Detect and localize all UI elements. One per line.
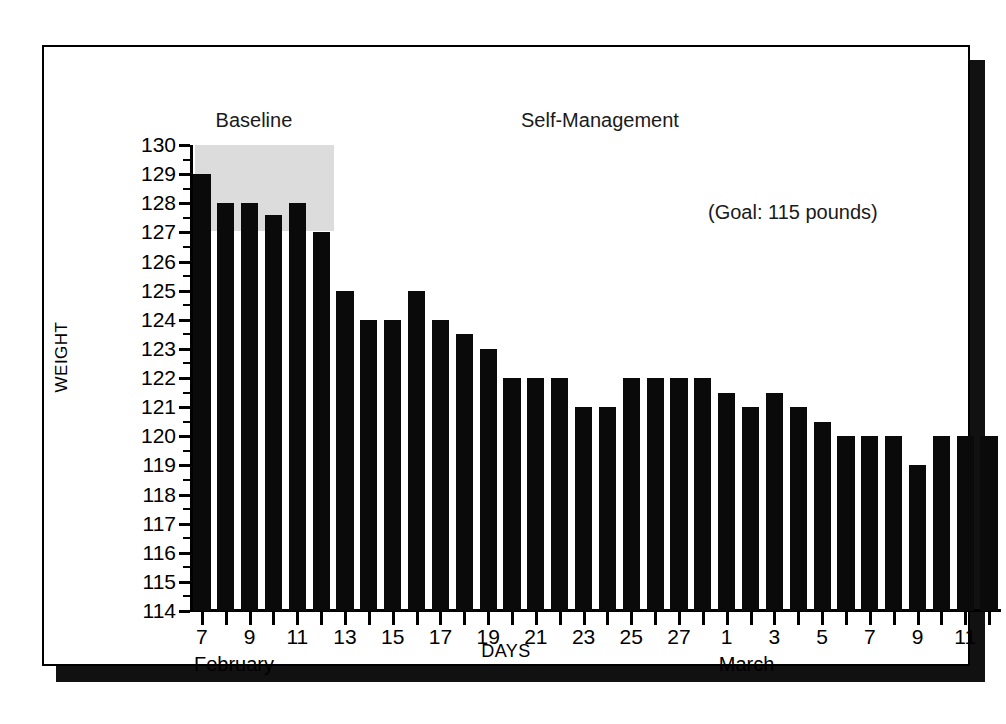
y-tick-label: 130 [132, 134, 176, 155]
bar [861, 436, 878, 611]
bar [837, 436, 854, 611]
x-tick [964, 612, 967, 625]
x-tick [272, 612, 275, 625]
y-tick-label: 126 [132, 251, 176, 272]
phase-label-baseline: Baseline [216, 109, 293, 132]
y-tick-major [179, 319, 190, 322]
y-tick-major [179, 464, 190, 467]
bar [670, 378, 687, 611]
bar [527, 378, 544, 611]
y-tick-label: 118 [132, 484, 176, 505]
x-tick [559, 612, 562, 625]
x-tick [702, 612, 705, 625]
bar [790, 407, 807, 611]
x-tick [344, 612, 347, 625]
y-tick-major [179, 610, 190, 613]
y-tick-major [179, 406, 190, 409]
bar [289, 203, 306, 611]
y-tick-major [179, 435, 190, 438]
y-tick-minor [183, 421, 190, 423]
y-tick-label: 115 [132, 571, 176, 592]
bar [909, 465, 926, 611]
x-tick [917, 612, 920, 625]
y-tick-major [179, 581, 190, 584]
y-tick-major [179, 523, 190, 526]
bar [957, 436, 974, 611]
bar [432, 320, 449, 611]
bar [408, 291, 425, 611]
x-tick [320, 612, 323, 625]
y-tick-label: 129 [132, 163, 176, 184]
bar-series [190, 145, 1001, 611]
y-tick-major [179, 494, 190, 497]
y-tick-label: 124 [132, 309, 176, 330]
bar [336, 291, 353, 611]
y-tick-major [179, 377, 190, 380]
x-tick [845, 612, 848, 625]
y-tick-minor [183, 537, 190, 539]
y-tick-minor [183, 275, 190, 277]
bar [933, 436, 950, 611]
x-tick [416, 612, 419, 625]
y-tick-label: 127 [132, 221, 176, 242]
bar [742, 407, 759, 611]
x-tick [487, 612, 490, 625]
bar [980, 436, 997, 611]
x-tick [988, 612, 991, 625]
x-tick [535, 612, 538, 625]
plot-area: Baseline Self-Management (Goal: 115 poun… [44, 47, 968, 664]
bar [766, 393, 783, 611]
x-tick [726, 612, 729, 625]
y-tick-minor [183, 508, 190, 510]
x-tick [606, 612, 609, 625]
x-tick [940, 612, 943, 625]
y-tick-label: 128 [132, 192, 176, 213]
x-tick [392, 612, 395, 625]
y-tick-minor [183, 304, 190, 306]
x-tick [678, 612, 681, 625]
figure-frame: Baseline Self-Management (Goal: 115 poun… [42, 45, 970, 666]
bar [313, 232, 330, 611]
y-tick-label: 125 [132, 280, 176, 301]
y-tick-minor [183, 188, 190, 190]
y-tick-label: 119 [132, 454, 176, 475]
bar [647, 378, 664, 611]
y-tick-minor [183, 246, 190, 248]
bar [623, 378, 640, 611]
bar [480, 349, 497, 611]
x-tick [201, 612, 204, 625]
bar [456, 334, 473, 611]
y-tick-minor [183, 333, 190, 335]
bar [694, 378, 711, 611]
y-tick-minor [183, 566, 190, 568]
y-tick-label: 123 [132, 338, 176, 359]
x-tick [869, 612, 872, 625]
bar [885, 436, 902, 611]
y-tick-major [179, 290, 190, 293]
y-tick-major [179, 144, 190, 147]
bar [193, 174, 210, 611]
bar [241, 203, 258, 611]
x-tick [225, 612, 228, 625]
x-tick [511, 612, 514, 625]
x-tick [249, 612, 252, 625]
x-tick [797, 612, 800, 625]
y-tick-major [179, 348, 190, 351]
bar [599, 407, 616, 611]
bar [575, 407, 592, 611]
y-tick-minor [183, 392, 190, 394]
x-tick [439, 612, 442, 625]
y-tick-minor [183, 595, 190, 597]
x-tick [750, 612, 753, 625]
bar [503, 378, 520, 611]
x-tick [893, 612, 896, 625]
y-tick-label: 117 [132, 513, 176, 534]
figure-root: Baseline Self-Management (Goal: 115 poun… [0, 0, 1006, 724]
x-tick [654, 612, 657, 625]
y-tick-major [179, 173, 190, 176]
x-axis-title: DAYS [44, 641, 968, 662]
bar [718, 393, 735, 611]
y-tick-label: 121 [132, 396, 176, 417]
y-tick-major [179, 552, 190, 555]
y-tick-major [179, 261, 190, 264]
